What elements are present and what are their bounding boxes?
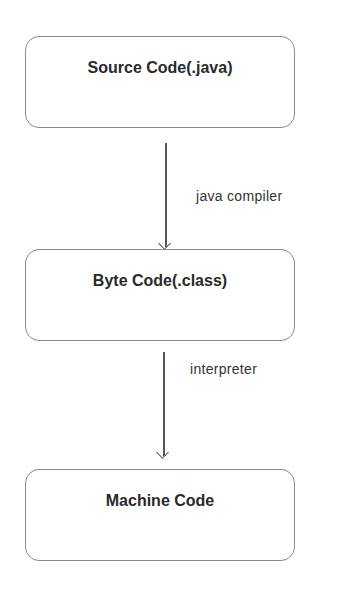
machine-code-label: Machine Code [26, 492, 294, 510]
byte-code-label: Byte Code(.class) [26, 272, 294, 290]
byte-code-node: Byte Code(.class) [25, 249, 295, 341]
source-code-label: Source Code(.java) [26, 59, 294, 77]
java-compiler-edge-label: java compiler [196, 188, 282, 204]
machine-code-node: Machine Code [25, 469, 295, 561]
arrow-head-icon [156, 446, 169, 459]
source-code-node: Source Code(.java) [25, 36, 295, 128]
interpreter-edge-label: interpreter [190, 361, 257, 377]
java-compiler-arrow [165, 143, 167, 247]
arrow-head-icon [158, 237, 171, 250]
interpreter-arrow [163, 352, 165, 456]
